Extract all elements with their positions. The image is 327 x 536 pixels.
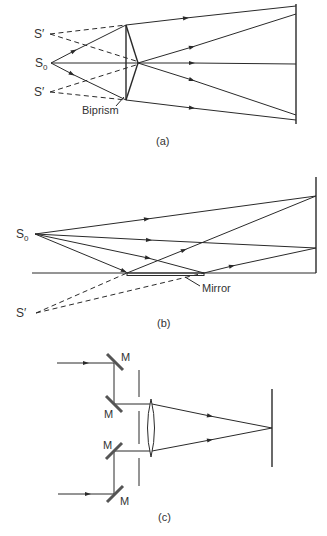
panel-a-biprism: S′ S0 S′ Biprism (a) bbox=[34, 4, 296, 147]
mirror-leader bbox=[185, 277, 200, 286]
label-mirror-c-4: M bbox=[120, 495, 129, 507]
ray-a-src-top bbox=[51, 51, 74, 63]
label-source-a: S0 bbox=[35, 56, 48, 72]
caption-a: (a) bbox=[156, 135, 169, 147]
label-mirror-c-2: M bbox=[104, 408, 113, 420]
label-mirror-c-1: M bbox=[121, 351, 130, 363]
label-virtual-source-bottom: S′ bbox=[34, 85, 45, 99]
label-mirror-c-3: M bbox=[103, 439, 112, 451]
virtual-rays-b bbox=[36, 273, 204, 313]
label-virtual-source-top: S′ bbox=[34, 27, 45, 41]
panel-b-lloyds-mirror: S0 S′ Mirror (b) bbox=[16, 177, 316, 329]
caption-b: (b) bbox=[157, 317, 170, 329]
optics-figure: S′ S0 S′ Biprism (a) bbox=[0, 0, 327, 536]
panel-c-mirror-lens: M M M M (c) bbox=[57, 351, 272, 523]
label-biprism: Biprism bbox=[82, 104, 119, 116]
caption-c: (c) bbox=[158, 511, 171, 523]
label-mirror: Mirror bbox=[202, 282, 231, 294]
mirror-b bbox=[127, 273, 204, 276]
label-source-b: S0 bbox=[16, 227, 29, 243]
lens-c bbox=[148, 399, 155, 457]
label-virtual-source-b: S′ bbox=[16, 306, 27, 320]
ray-a-src-bottom bbox=[51, 63, 72, 74]
